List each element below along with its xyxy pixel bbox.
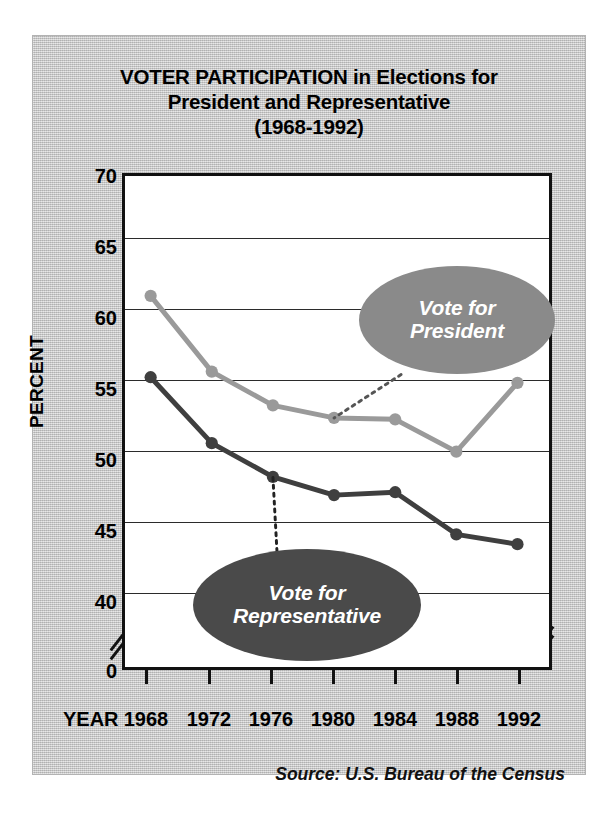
x-label-1976: 1976	[249, 709, 294, 729]
callout-vote-for-representative: Vote for Representative	[193, 549, 421, 661]
callout-president-line-1: Vote for	[410, 297, 504, 320]
chart-panel: VOTER PARTICIPATION in Elections for Pre…	[33, 36, 585, 774]
data-point	[389, 413, 401, 425]
data-point	[145, 290, 157, 302]
chart-page: VOTER PARTICIPATION in Elections for Pre…	[0, 0, 613, 818]
line-vote-for-representative	[151, 377, 518, 544]
x-tick-1988	[456, 670, 459, 684]
y-tick-55: 55	[71, 379, 117, 399]
callout-vote-for-president: Vote for President	[359, 266, 555, 374]
data-point	[206, 437, 218, 449]
data-point	[328, 489, 340, 501]
y-tick-65: 65	[71, 237, 117, 257]
source-note: Source: U.S. Bureau of the Census	[275, 764, 565, 785]
x-axis-title: YEAR	[63, 709, 119, 729]
y-axis-labels: 70 65 60 55 50 45 40 0	[57, 36, 117, 818]
x-tick-1992	[518, 670, 521, 684]
x-label-1968: 1968	[124, 709, 169, 729]
x-tick-1976	[270, 670, 273, 684]
data-point	[450, 446, 462, 458]
y-tick-60: 60	[71, 308, 117, 328]
x-tick-1980	[332, 670, 335, 684]
callout-president-line-2: President	[410, 320, 504, 343]
points-vote-for-representative	[145, 371, 524, 550]
data-point	[511, 538, 523, 550]
x-tick-1968	[145, 670, 148, 684]
callout-representative-line-2: Representative	[233, 605, 381, 628]
data-point	[206, 365, 218, 377]
callout-representative-line-1: Vote for	[233, 582, 381, 605]
x-label-1992: 1992	[497, 709, 542, 729]
x-label-1972: 1972	[187, 709, 232, 729]
y-tick-50: 50	[71, 450, 117, 470]
data-point	[267, 399, 279, 411]
leader-line-president	[334, 375, 401, 418]
x-tick-1972	[208, 670, 211, 684]
y-axis-title: PERCENT	[26, 335, 48, 428]
x-label-1980: 1980	[311, 709, 356, 729]
data-point	[450, 528, 462, 540]
y-tick-45: 45	[71, 521, 117, 541]
data-point	[389, 486, 401, 498]
y-tick-70: 70	[71, 166, 117, 186]
y-tick-40: 40	[71, 592, 117, 612]
data-point	[511, 377, 523, 389]
x-label-1984: 1984	[373, 709, 418, 729]
data-point	[145, 371, 157, 383]
x-label-1988: 1988	[435, 709, 480, 729]
y-tick-0: 0	[71, 661, 117, 681]
x-tick-1984	[394, 670, 397, 684]
